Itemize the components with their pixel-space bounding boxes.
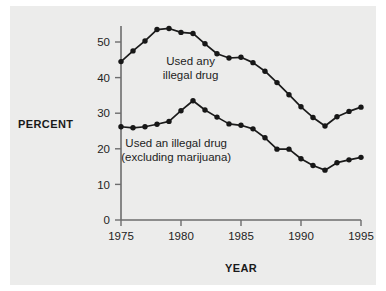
tick-marks-group xyxy=(115,42,361,226)
series-label-used-any-illegal-drug: Used anyillegal drug xyxy=(163,55,219,81)
data-point-marker xyxy=(130,125,135,130)
y-tick-label: 0 xyxy=(104,214,110,226)
data-point-marker xyxy=(322,167,327,172)
y-tick-label: 10 xyxy=(97,179,110,191)
x-tick-label: 1980 xyxy=(168,230,194,242)
data-point-marker xyxy=(142,124,147,129)
y-axis-tick-labels: 01020304050 xyxy=(97,36,110,226)
data-point-marker xyxy=(298,156,303,161)
data-point-marker xyxy=(118,124,123,129)
data-point-marker xyxy=(274,80,279,85)
data-point-marker xyxy=(346,157,351,162)
y-tick-label: 40 xyxy=(97,72,110,84)
chart-page: 01020304050 19751980198519901995 Used an… xyxy=(0,0,386,291)
data-point-marker xyxy=(274,146,279,151)
data-point-marker xyxy=(202,41,207,46)
data-point-marker xyxy=(142,38,147,43)
data-series xyxy=(118,26,363,129)
data-point-marker xyxy=(250,126,255,131)
data-point-marker xyxy=(298,104,303,109)
data-point-marker xyxy=(262,68,267,73)
data-point-marker xyxy=(226,121,231,126)
data-point-marker xyxy=(202,107,207,112)
series-label-excluding-marijuana: Used an illegal drug(excluding marijuana… xyxy=(121,137,231,163)
data-point-marker xyxy=(262,135,267,140)
x-tick-label: 1990 xyxy=(288,230,314,242)
series-polyline xyxy=(121,28,361,126)
data-point-marker xyxy=(190,31,195,36)
data-point-marker xyxy=(286,146,291,151)
data-point-marker xyxy=(310,115,315,120)
data-point-marker xyxy=(190,98,195,103)
data-point-marker xyxy=(346,109,351,114)
series-annotations-group: Used anyillegal drugUsed an illegal drug… xyxy=(121,55,231,162)
x-tick-label: 1995 xyxy=(348,230,374,242)
data-point-marker xyxy=(250,60,255,65)
data-point-marker xyxy=(286,92,291,97)
series-label-line: Used an illegal drug xyxy=(125,137,227,149)
x-axis-title: YEAR xyxy=(225,262,257,274)
data-point-marker xyxy=(154,122,159,127)
data-point-marker xyxy=(322,123,327,128)
data-point-marker xyxy=(334,114,339,119)
data-point-marker xyxy=(178,108,183,113)
data-point-marker xyxy=(130,48,135,53)
y-tick-label: 30 xyxy=(97,107,110,119)
series-label-line: Used any xyxy=(166,55,215,67)
x-tick-label: 1975 xyxy=(108,230,134,242)
data-point-marker xyxy=(358,155,363,160)
series-label-line: (excluding marijuana) xyxy=(121,151,231,163)
data-point-marker xyxy=(214,51,219,56)
data-point-marker xyxy=(238,55,243,60)
data-point-marker xyxy=(166,26,171,31)
data-point-marker xyxy=(226,55,231,60)
line-chart: 01020304050 19751980198519901995 Used an… xyxy=(0,0,386,291)
y-axis-title: PERCENT xyxy=(18,118,73,130)
data-point-marker xyxy=(154,27,159,32)
y-tick-label: 20 xyxy=(97,143,110,155)
data-point-marker xyxy=(166,119,171,124)
y-tick-label: 50 xyxy=(97,36,110,48)
data-point-marker xyxy=(118,59,123,64)
x-axis-tick-labels: 19751980198519901995 xyxy=(108,230,374,242)
data-point-marker xyxy=(310,163,315,168)
data-point-marker xyxy=(238,123,243,128)
series-label-line: illegal drug xyxy=(163,69,219,81)
x-tick-label: 1985 xyxy=(228,230,254,242)
data-point-marker xyxy=(358,104,363,109)
data-point-marker xyxy=(178,30,183,35)
data-point-marker xyxy=(214,114,219,119)
data-point-marker xyxy=(334,160,339,165)
